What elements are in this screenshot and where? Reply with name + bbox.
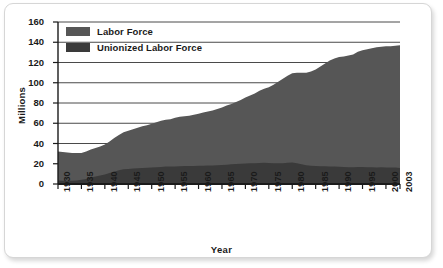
x-tick-label: 2000 [390,171,400,192]
x-tick-label: 1995 [367,171,377,192]
legend-label: Unionized Labor Force [97,42,202,53]
x-tick-label: 1965 [226,171,236,192]
legend-label: Labor Force [97,26,153,37]
chart-figure: 160140120100806040200 Millions 193019351… [0,0,443,268]
x-tick-label: 1930 [62,171,72,192]
x-tick-label: 1970 [249,171,259,192]
x-tick-label: 1945 [132,171,142,192]
x-tick-label: 1960 [203,171,213,192]
legend-swatch-icon [66,43,90,52]
x-tick-label: 1955 [179,171,189,192]
x-tick-label: 1980 [296,171,306,192]
x-tick-label: 1935 [85,171,95,192]
x-tick-label: 1985 [320,171,330,192]
legend-item: Unionized Labor Force [66,41,202,54]
legend-swatch-icon [66,27,90,36]
x-tick-label: 1950 [156,171,166,192]
x-tick-label: 1990 [343,171,353,192]
x-tick-label: 2003 [404,171,414,192]
x-axis-title: Year [0,244,443,255]
chart-legend: Labor ForceUnionized Labor Force [66,25,202,57]
legend-item: Labor Force [66,25,202,38]
x-tick-label: 1975 [273,171,283,192]
x-tick-label: 1940 [109,171,119,192]
